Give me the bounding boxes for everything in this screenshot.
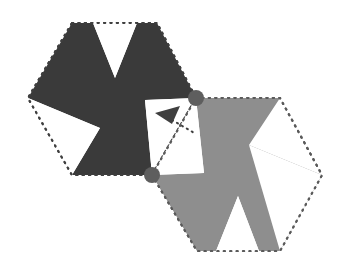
pivot-lower-dot[interactable] — [144, 167, 160, 183]
pivot-upper-dot[interactable] — [188, 90, 204, 106]
figure-canvas: Two pinwheel hexagon tiles joined at two… — [0, 0, 358, 276]
